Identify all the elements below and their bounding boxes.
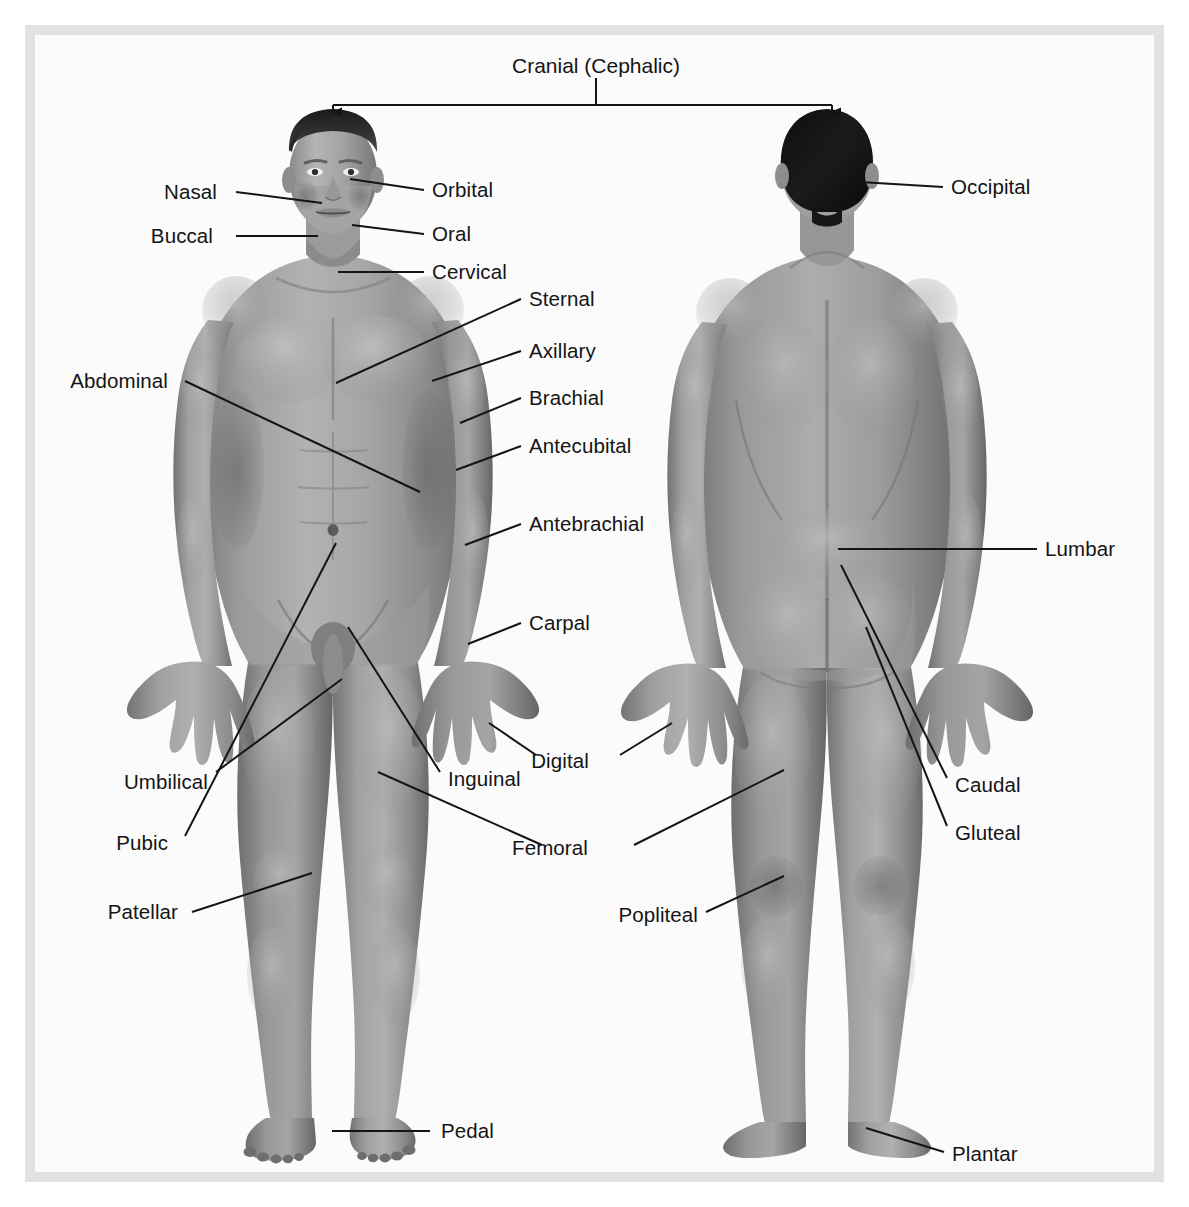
leader-carpal xyxy=(468,623,521,644)
left-biceps xyxy=(182,348,218,432)
left-deltoid xyxy=(202,276,270,344)
label-inguinal: Inguinal xyxy=(448,769,521,790)
posterior-right-calf xyxy=(861,915,915,1015)
label-occipital: Occipital xyxy=(951,177,1031,198)
label-carpal: Carpal xyxy=(529,613,590,634)
label-sternal: Sternal xyxy=(529,289,595,310)
label-pedal: Pedal xyxy=(441,1121,494,1142)
label-antecubital: Antecubital xyxy=(529,436,632,457)
posterior-left-hand xyxy=(621,663,748,766)
label-orbital: Orbital xyxy=(432,180,493,201)
umbilicus xyxy=(328,524,339,536)
label-gluteal: Gluteal xyxy=(955,823,1021,844)
label-cervical: Cervical xyxy=(432,262,507,283)
right-biceps xyxy=(448,348,484,432)
right-oblique-shading xyxy=(402,390,454,550)
label-lumbar: Lumbar xyxy=(1045,539,1115,560)
right-deltoid xyxy=(396,276,464,344)
posterior-body xyxy=(621,109,1033,1158)
label-patellar: Patellar xyxy=(108,902,178,923)
leader-oral xyxy=(352,225,424,234)
label-popliteal: Popliteal xyxy=(618,905,698,926)
label-caudal: Caudal xyxy=(955,775,1021,796)
posterior-left-forearm xyxy=(671,494,703,590)
right-triceps xyxy=(942,352,978,436)
left-calf xyxy=(247,927,297,1023)
label-abdominal: Abdominal xyxy=(70,371,168,392)
posterior-right-foot xyxy=(848,1122,931,1158)
label-axillary: Axillary xyxy=(529,341,596,362)
left-cheek xyxy=(292,182,318,210)
posterior-left-deltoid xyxy=(696,278,764,346)
right-calf xyxy=(370,927,420,1023)
label-plantar: Plantar xyxy=(952,1144,1018,1165)
label-nasal: Nasal xyxy=(164,182,217,203)
posterior-right-ear xyxy=(865,163,879,189)
label-brachial: Brachial xyxy=(529,388,604,409)
left-hand xyxy=(127,661,254,764)
label-oral: Oral xyxy=(432,224,471,245)
right-forearm-highlight xyxy=(457,492,489,588)
label-femoral: Femoral xyxy=(512,838,588,859)
right-pupil xyxy=(348,169,354,175)
posterior-left-ear xyxy=(775,163,789,189)
right-hand xyxy=(412,661,539,764)
label-umbilical: Umbilical xyxy=(124,772,208,793)
posterior-left-foot xyxy=(723,1122,806,1158)
left-popliteal-fossa xyxy=(750,856,802,916)
cranial-cephalic-label: Cranial (Cephalic) xyxy=(512,54,680,78)
right-cheek xyxy=(348,182,374,210)
posterior-right-deltoid xyxy=(890,278,958,346)
posterior-left-calf xyxy=(741,915,795,1015)
lumbar-region xyxy=(769,509,885,581)
figure-canvas: Cranial (Cephalic) Nasal Buccal Orbital … xyxy=(0,0,1189,1207)
label-antebrachial: Antebrachial xyxy=(529,514,644,535)
right-popliteal-fossa xyxy=(854,856,906,916)
anatomical-regions-figure: Cranial (Cephalic) Nasal Buccal Orbital … xyxy=(0,0,1189,1207)
left-knee xyxy=(254,846,306,914)
left-foot xyxy=(246,1118,316,1161)
label-buccal: Buccal xyxy=(151,226,213,247)
posterior-hair xyxy=(781,109,873,212)
left-forearm-highlight xyxy=(177,492,209,588)
right-gluteus xyxy=(820,573,912,677)
left-triceps xyxy=(676,352,712,436)
posterior-right-forearm xyxy=(951,494,983,590)
leader-digital-anterior xyxy=(489,723,536,755)
posterior-right-hand xyxy=(906,663,1033,766)
label-digital: Digital xyxy=(531,751,589,772)
left-pupil xyxy=(312,169,318,175)
label-pubic: Pubic xyxy=(116,833,168,854)
right-knee xyxy=(360,846,412,914)
